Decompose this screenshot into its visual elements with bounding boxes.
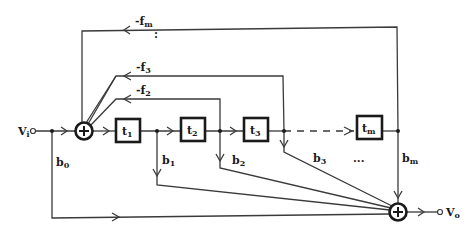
delay-block-tm: tm bbox=[357, 116, 382, 139]
delay-block-t2: t2 bbox=[181, 118, 205, 141]
input-terminal bbox=[31, 129, 36, 134]
feedback-label-f2: -f2 bbox=[136, 84, 151, 98]
input-summing-junction bbox=[76, 123, 93, 140]
feedback-label-f3: -f3 bbox=[136, 61, 151, 75]
feedforward-path-1 bbox=[153, 131, 390, 210]
feedforward-path-2 bbox=[216, 131, 391, 208]
output-terminal bbox=[438, 210, 443, 215]
output-label: Vo bbox=[445, 206, 461, 220]
feedforward-path-0 bbox=[52, 131, 390, 221]
branch-node-1 bbox=[155, 129, 159, 133]
feedforward-label-bm: bm bbox=[402, 152, 419, 166]
vertical-ellipsis: : bbox=[154, 28, 158, 41]
input-label: Vi bbox=[17, 125, 30, 139]
feedback-path-3-extra bbox=[86, 76, 116, 123]
feedback-label-fm: -fm bbox=[135, 15, 153, 29]
output-summing-junction bbox=[390, 204, 407, 221]
feedforward-label-b3: b3 bbox=[313, 152, 327, 166]
feedforward-label-b0: b0 bbox=[56, 156, 70, 170]
feedforward-label-b1: b1 bbox=[162, 154, 175, 168]
branch-node-m bbox=[396, 129, 400, 133]
signal-flow-diagram: t1 t2 t3 tm -fm : -f3 -f2 b0 b1 b2 b3 ..… bbox=[0, 0, 473, 236]
delay-block-t3: t3 bbox=[244, 118, 268, 141]
horizontal-ellipsis: ... bbox=[353, 152, 365, 165]
branch-node-input bbox=[50, 129, 54, 133]
branch-node-3 bbox=[282, 129, 286, 133]
feedforward-path-m bbox=[394, 131, 402, 203]
delay-block-t1: t1 bbox=[116, 119, 140, 142]
output-path bbox=[407, 208, 437, 216]
feedforward-label-b2: b2 bbox=[232, 154, 245, 168]
branch-node-2 bbox=[218, 129, 222, 133]
